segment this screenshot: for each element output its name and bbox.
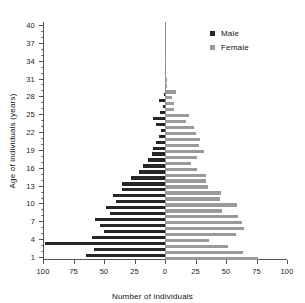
y-tick-minor <box>41 162 44 163</box>
y-tick-minor <box>41 126 44 127</box>
x-tick <box>135 260 136 264</box>
x-tick-label: 100 <box>280 267 293 276</box>
bar-female-age-15 <box>165 174 206 177</box>
bar-male-age-10 <box>116 200 165 203</box>
bar-male-age-19 <box>153 147 165 150</box>
bar-male-age-16 <box>143 164 165 167</box>
x-tick <box>74 260 75 264</box>
y-tick-minor <box>41 67 44 68</box>
y-tick-minor <box>41 108 44 109</box>
y-tick-label: 7 <box>31 217 35 226</box>
y-tick-minor <box>41 192 44 193</box>
y-tick <box>39 132 43 133</box>
y-tick-minor <box>41 174 44 175</box>
y-tick-minor <box>41 144 44 145</box>
bar-male-age-2 <box>94 248 165 251</box>
bar-female-age-31 <box>165 78 167 81</box>
x-tick-label: 25 <box>191 267 200 276</box>
y-tick-minor <box>41 73 44 74</box>
x-tick <box>165 260 166 264</box>
legend-label-male: Male <box>221 29 239 38</box>
bar-female-age-12 <box>165 191 221 194</box>
bar-female-age-28 <box>165 96 172 99</box>
y-tick-minor <box>41 31 44 32</box>
x-tick <box>287 260 288 264</box>
y-tick <box>39 239 43 240</box>
y-tick-label: 16 <box>26 163 35 172</box>
y-tick-label: 19 <box>26 145 35 154</box>
chart-legend: Male Female <box>210 29 249 57</box>
bar-male-age-7 <box>95 218 165 221</box>
y-tick-label: 37 <box>26 38 35 47</box>
bar-female-age-18 <box>165 156 197 159</box>
y-tick <box>39 221 43 222</box>
bar-female-age-10 <box>165 203 237 206</box>
y-tick-minor <box>41 209 44 210</box>
bar-female-age-8 <box>165 215 238 218</box>
y-tick <box>39 114 43 115</box>
x-tick-label: 75 <box>252 267 261 276</box>
bar-female-age-26 <box>165 108 174 111</box>
bar-male-age-13 <box>122 182 165 185</box>
y-tick-label: 25 <box>26 110 35 119</box>
x-tick <box>257 260 258 264</box>
plot-area: 1007550250255075100 14710131619222528313… <box>43 22 287 260</box>
x-tick <box>104 260 105 264</box>
bar-female-age-14 <box>165 179 206 182</box>
x-tick-label: 0 <box>163 267 167 276</box>
y-tick-label: 4 <box>31 235 35 244</box>
y-tick-label: 40 <box>26 20 35 29</box>
bar-female-age-34 <box>165 60 166 63</box>
legend-label-female: Female <box>221 43 249 52</box>
y-tick <box>39 61 43 62</box>
bar-female-age-30 <box>165 84 167 87</box>
y-axis-line <box>43 22 44 260</box>
y-tick-minor <box>41 120 44 121</box>
x-tick-label: 50 <box>222 267 231 276</box>
bar-female-age-1 <box>165 257 258 260</box>
y-tick-minor <box>41 215 44 216</box>
bar-male-age-14 <box>131 176 165 179</box>
bar-female-age-16 <box>165 168 197 171</box>
population-pyramid-chart: 1007550250255075100 14710131619222528313… <box>0 0 305 303</box>
x-tick-label: 50 <box>100 267 109 276</box>
bar-female-age-3 <box>165 245 228 248</box>
y-tick-minor <box>41 37 44 38</box>
y-axis-title: Age of individuals (years) <box>8 93 17 188</box>
y-tick <box>39 150 43 151</box>
x-axis-title: Number of individuals <box>0 292 305 301</box>
y-tick-minor <box>41 245 44 246</box>
bar-female-age-19 <box>165 150 204 153</box>
bar-female-age-11 <box>165 197 220 200</box>
x-tick <box>196 260 197 264</box>
bar-male-age-12 <box>122 188 165 191</box>
y-tick-label: 28 <box>26 92 35 101</box>
legend-swatch-male-icon <box>210 31 215 36</box>
x-tick-label: 100 <box>36 267 49 276</box>
y-tick-minor <box>41 90 44 91</box>
y-tick-minor <box>41 156 44 157</box>
y-tick-minor <box>41 251 44 252</box>
x-tick-label: 75 <box>69 267 78 276</box>
y-tick-label: 22 <box>26 128 35 137</box>
y-tick-minor <box>41 49 44 50</box>
y-tick <box>39 203 43 204</box>
bar-female-age-22 <box>165 132 196 135</box>
y-tick-minor <box>41 198 44 199</box>
bar-female-age-23 <box>165 126 194 129</box>
bar-female-age-7 <box>165 221 242 224</box>
x-tick <box>226 260 227 264</box>
bar-male-age-1 <box>86 254 165 257</box>
bar-female-age-4 <box>165 239 209 242</box>
x-tick <box>43 260 44 264</box>
y-tick-minor <box>41 227 44 228</box>
bar-male-age-15 <box>139 170 165 173</box>
y-tick-minor <box>41 84 44 85</box>
bar-female-age-32 <box>165 72 166 75</box>
y-tick-label: 1 <box>31 253 35 262</box>
y-tick <box>39 168 43 169</box>
y-tick-label: 34 <box>26 56 35 65</box>
bar-female-age-33 <box>165 66 166 69</box>
bar-female-age-25 <box>165 114 189 117</box>
bar-male-age-4 <box>92 236 165 239</box>
